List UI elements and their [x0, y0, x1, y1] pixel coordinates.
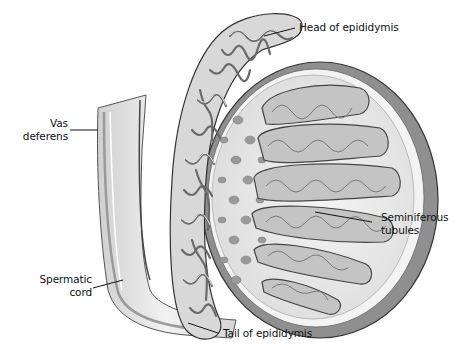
- label-head-of-epididymis: Head of epididymis: [299, 21, 399, 34]
- label-seminiferous-tubules: Seminiferous tubules: [381, 211, 448, 237]
- label-spermatic-cord: Spermatic cord: [20, 273, 92, 299]
- label-tail-of-epididymis: Tail of epididymis: [223, 327, 312, 340]
- testis-illustration: [0, 0, 469, 362]
- diagram-canvas: Head of epididymis Vas deferens Seminife…: [0, 0, 469, 362]
- label-vas-deferens: Vas deferens: [20, 117, 68, 143]
- testis-body: [202, 62, 438, 338]
